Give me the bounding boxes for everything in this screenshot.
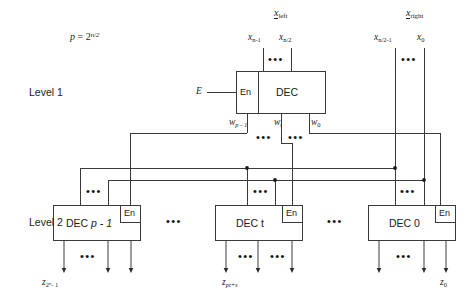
ellipsis-dec0-inputs: ••• — [400, 186, 416, 197]
figure-canvas: p = 2n/2 Level 1 Level 2 xleft xright xn… — [0, 0, 463, 306]
ellipsis-decp-inputs: ••• — [86, 186, 102, 197]
ellipsis-between-decp-dect: ••• — [166, 216, 182, 227]
ellipsis-decp-outputs: ••• — [80, 251, 96, 262]
level-2-caption: Level 2 — [29, 216, 63, 228]
p-formula: p = 2n/2 — [70, 31, 99, 42]
w-t-label: wt — [274, 117, 282, 127]
x-left-vector-subscript: left — [278, 12, 287, 19]
rail-x-right-hi — [80, 168, 395, 205]
w-0-subscript: 0 — [317, 121, 320, 128]
x-bit-n-1-label: xn-1 — [248, 32, 261, 42]
x-bit-0-subscript: 0 — [421, 36, 424, 43]
junction-dec0-hi — [393, 166, 397, 170]
ellipsis-dect-outputs-left: ••• — [238, 251, 254, 262]
z-pt-s-subscript: pt+s — [226, 281, 238, 288]
x-bit-0-label: x0 — [417, 32, 424, 42]
p-formula-lhs: p — [70, 31, 75, 42]
ellipsis-w-left: ••• — [256, 132, 272, 143]
level2-dec-p-1-index: p - 1 — [91, 217, 112, 229]
wire-w-p-1-route — [130, 133, 247, 205]
level2-dec-t-label: DEC t — [236, 217, 264, 229]
ellipsis-dec0-outputs: ••• — [396, 251, 412, 262]
level2-dec-t-index: t — [261, 217, 264, 229]
z-0-label: z0 — [440, 277, 447, 287]
x-bit-n-1-subscript: n-1 — [252, 36, 261, 43]
wiring — [53, 48, 455, 240]
w-p-1-subscript: p - 1 — [235, 121, 247, 128]
level2-dec-p-1-en-label: En — [124, 208, 135, 218]
junction-dect-hi — [245, 166, 249, 170]
wire-w-0-route — [309, 133, 440, 205]
x-bit-n-2-minus-1-subscript: n/2-1 — [378, 36, 392, 43]
x-bit-n-2-minus-1-label: xn/2-1 — [374, 32, 392, 42]
level2-dec-0-index: 0 — [414, 217, 420, 229]
z-2n-1-sub-tail: - 1 — [51, 281, 58, 288]
level2-dec-p-1-name: DEC — [66, 217, 88, 229]
x-bit-n-2-subscript: n/2 — [283, 36, 291, 43]
ellipsis-dect-outputs-right: ••• — [270, 251, 286, 262]
ellipsis-dect-inputs: ••• — [253, 186, 269, 197]
level2-dec-0-name: DEC — [389, 217, 411, 229]
enable-E-label: E — [196, 86, 202, 96]
x-right-vector-label: xright — [406, 7, 423, 18]
w-0-label: w0 — [311, 117, 321, 127]
level2-dec-t-name: DEC — [236, 217, 258, 229]
z-pt-s-label: zpt+s — [222, 277, 238, 287]
junction-dec0-lo — [422, 178, 426, 182]
ellipsis-right-inputs: ••• — [401, 54, 417, 65]
level1-dec-label: DEC — [276, 86, 298, 98]
decoder-block-diagram — [0, 0, 463, 306]
level-1-caption: Level 1 — [29, 86, 63, 98]
x-left-vector-label: xleft — [274, 7, 288, 18]
level1-en-pin-label: En — [240, 87, 251, 97]
wire-w-t-route — [281, 133, 292, 205]
p-formula-exponent: n/2 — [91, 31, 100, 38]
level2-dec-0-en-label: En — [439, 208, 450, 218]
output-arrows — [64, 240, 446, 271]
ellipsis-w-right: ••• — [288, 132, 304, 143]
ellipsis-between-dect-dec0: ••• — [327, 216, 343, 227]
ellipsis-left-inputs: ••• — [268, 54, 284, 65]
junction-dect-lo — [273, 178, 277, 182]
z-2n-1-subscript: 2n- 1 — [46, 281, 58, 288]
w-t-subscript: t — [280, 121, 282, 128]
z-2n-1-label: z2n- 1 — [42, 277, 58, 287]
x-bit-n-2-label: xn/2 — [279, 32, 291, 42]
level2-dec-t-en-label: En — [286, 208, 297, 218]
p-formula-eq: = — [78, 31, 84, 42]
w-p-1-label: wp - 1 — [229, 117, 247, 127]
level2-dec-p-1-label: DEC p - 1 — [66, 217, 112, 229]
x-right-vector-subscript: right — [410, 12, 423, 19]
z-0-subscript: 0 — [444, 281, 447, 288]
level2-dec-0-label: DEC 0 — [389, 217, 420, 229]
